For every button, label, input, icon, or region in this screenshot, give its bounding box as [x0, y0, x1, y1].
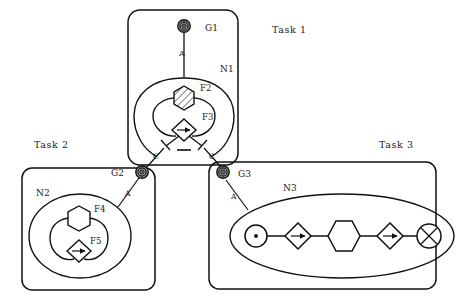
edge-label-A-task2: A — [124, 189, 131, 198]
goal-node-G3[interactable] — [217, 166, 229, 178]
chain-node-mid[interactable] — [328, 221, 360, 251]
goal-label-G2: G2 — [111, 168, 124, 178]
chain-node-end[interactable] — [417, 224, 441, 248]
edge-label-A-task1: A — [178, 49, 185, 58]
edge-label-A-task3: A — [230, 192, 237, 201]
feature-F4[interactable] — [68, 206, 90, 231]
task-network-diagram: G1 A N1 F2 F3 — [0, 0, 460, 302]
net-label-N2: N2 — [36, 188, 50, 198]
task-title-1: Task 1 — [272, 24, 307, 35]
chain-node-start[interactable] — [245, 225, 267, 247]
goal-node-G1[interactable] — [178, 20, 190, 32]
edge-label-C-right: C — [209, 152, 215, 161]
task-title-2: Task 2 — [34, 139, 69, 150]
goal-node-G2[interactable] — [136, 166, 148, 178]
net-label-N1: N1 — [220, 64, 234, 74]
canvas-background — [0, 0, 460, 302]
feature-label-F5: F5 — [90, 236, 101, 246]
task-title-3: Task 3 — [379, 139, 414, 150]
goal-label-G3: G3 — [238, 169, 251, 179]
feature-F2[interactable] — [174, 86, 194, 110]
feature-label-F4: F4 — [94, 204, 105, 214]
edge-label-C-left: C — [153, 152, 159, 161]
feature-label-F2: F2 — [200, 83, 211, 93]
diagram-canvas: G1 A N1 F2 F3 — [0, 0, 460, 302]
goal-label-G1: G1 — [205, 23, 218, 33]
net-label-N3: N3 — [283, 183, 297, 193]
feature-label-F3: F3 — [202, 112, 213, 122]
